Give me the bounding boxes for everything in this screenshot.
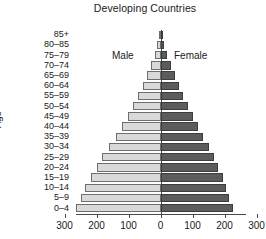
bar-female (161, 204, 233, 213)
y-tick-label: 60–64 (9, 81, 69, 90)
y-tick-label: 25–29 (9, 153, 69, 162)
bar-male (128, 112, 161, 121)
bar-female (161, 102, 188, 111)
y-tick-label: 80–85 (9, 40, 69, 49)
y-tick-label: 15–19 (9, 173, 69, 182)
x-tick (97, 214, 98, 218)
bar-female (161, 61, 171, 70)
bar-female (161, 163, 219, 172)
bar-female (161, 31, 163, 40)
bar-female (161, 194, 230, 203)
y-tick-label: 0–4 (9, 204, 69, 213)
population-pyramid-chart: Developing Countries Age 0–45–910–1415–1… (0, 0, 266, 239)
bar-male (147, 71, 160, 80)
x-tick (65, 214, 66, 218)
bar-female (161, 112, 193, 121)
bar-male (91, 173, 161, 182)
bar-male (97, 163, 161, 172)
bar-male (143, 82, 161, 91)
series-label-male: Male (112, 50, 134, 61)
y-tick-label: 65–69 (9, 71, 69, 80)
bar-female (161, 71, 175, 80)
bar-female (161, 153, 214, 162)
bar-female (161, 173, 223, 182)
bar-male (151, 61, 161, 70)
bar-male (76, 204, 161, 213)
y-tick-label: 50–54 (9, 102, 69, 111)
series-label-female: Female (174, 50, 207, 61)
bar-male (85, 184, 160, 193)
bar-female (161, 51, 168, 60)
bar-male (81, 194, 161, 203)
y-tick-label: 45–49 (9, 112, 69, 121)
y-tick-label: 10–14 (9, 183, 69, 192)
y-tick-label: 40–44 (9, 122, 69, 131)
bar-female (161, 92, 183, 101)
bar-male (116, 133, 161, 142)
x-tick (257, 214, 258, 218)
y-tick-label: 85+ (9, 30, 69, 39)
y-tick-label: 5–9 (9, 193, 69, 202)
y-tick-label: 20–24 (9, 163, 69, 172)
x-tick (161, 214, 162, 218)
plot-area: 0–45–910–1415–1920–2425–2930–3435–3940–4… (0, 0, 266, 239)
bar-female (161, 82, 179, 91)
bar-male (133, 102, 161, 111)
x-tick-label: 300 (237, 220, 266, 232)
bar-male (109, 143, 160, 152)
x-tick (193, 214, 194, 218)
y-tick-label: 35–39 (9, 132, 69, 141)
bar-female (161, 133, 204, 142)
bar-female (161, 41, 165, 50)
bar-male (122, 122, 160, 131)
bar-male (138, 92, 160, 101)
y-tick-label: 55–59 (9, 91, 69, 100)
x-tick (129, 214, 130, 218)
y-tick-label: 70–74 (9, 61, 69, 70)
x-tick (225, 214, 226, 218)
bar-female (161, 122, 198, 131)
bar-male (102, 153, 160, 162)
y-tick-label: 75–79 (9, 51, 69, 60)
y-tick-label: 30–34 (9, 142, 69, 151)
bar-female (161, 143, 209, 152)
bar-female (161, 184, 227, 193)
